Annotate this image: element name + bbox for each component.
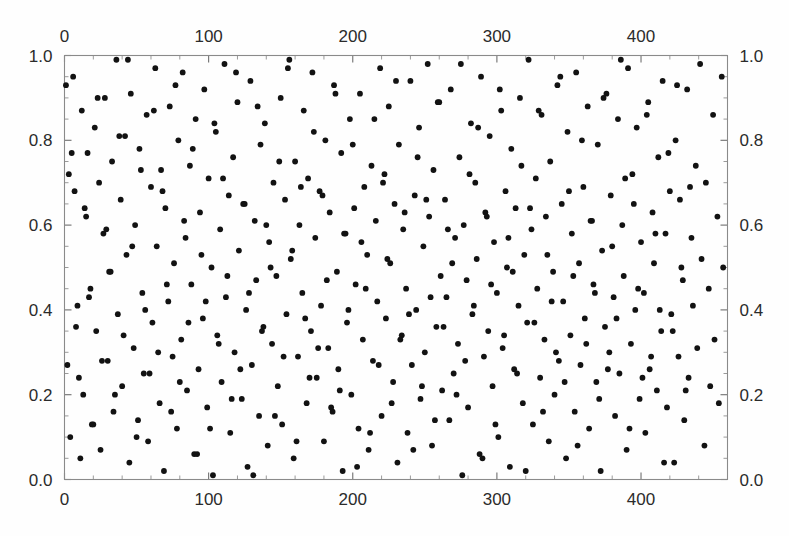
data-point xyxy=(583,341,589,347)
data-point xyxy=(556,358,562,364)
data-point xyxy=(222,61,228,67)
data-point xyxy=(716,400,722,406)
y-axis-tick-label-right: 0.8 xyxy=(740,131,764,150)
data-point xyxy=(321,438,327,444)
data-point xyxy=(72,188,78,194)
data-point xyxy=(335,366,341,372)
data-point xyxy=(560,299,566,305)
data-point xyxy=(533,176,539,182)
data-point xyxy=(126,460,132,466)
data-point xyxy=(255,103,261,109)
data-point xyxy=(472,180,478,186)
data-point xyxy=(113,57,119,63)
data-point xyxy=(305,176,311,182)
data-point xyxy=(432,417,438,423)
data-point xyxy=(69,150,75,156)
data-point xyxy=(690,303,696,309)
data-point xyxy=(576,260,582,266)
data-point xyxy=(445,226,451,232)
data-point xyxy=(324,277,330,283)
data-point xyxy=(259,328,265,334)
data-point xyxy=(199,252,205,258)
data-point xyxy=(328,405,334,411)
data-point xyxy=(289,248,295,254)
data-point xyxy=(555,82,561,88)
data-point xyxy=(668,311,674,317)
data-point xyxy=(263,222,269,228)
data-point xyxy=(371,116,377,122)
data-point xyxy=(536,108,542,114)
data-point xyxy=(442,197,448,203)
data-point xyxy=(396,142,402,148)
data-point xyxy=(312,235,318,241)
data-point xyxy=(595,142,601,148)
data-point xyxy=(697,61,703,67)
data-point xyxy=(591,282,597,288)
data-point xyxy=(235,99,241,105)
data-point xyxy=(250,472,256,478)
data-point xyxy=(653,231,659,237)
y-axis-tick-label-right: 1.0 xyxy=(740,47,764,66)
data-point xyxy=(376,362,382,368)
data-point xyxy=(340,468,346,474)
data-point xyxy=(710,112,716,118)
data-point xyxy=(128,91,134,97)
data-point xyxy=(609,243,615,249)
data-point xyxy=(619,222,625,228)
data-point xyxy=(298,184,304,190)
data-point xyxy=(661,460,667,466)
data-point xyxy=(243,307,249,313)
data-point xyxy=(565,129,571,135)
data-point xyxy=(433,324,439,330)
data-point xyxy=(552,392,558,398)
data-point xyxy=(452,235,458,241)
data-point xyxy=(190,146,196,152)
data-point xyxy=(640,375,646,381)
data-point xyxy=(644,112,650,118)
data-point xyxy=(687,184,693,190)
data-point xyxy=(497,87,503,93)
data-point xyxy=(344,320,350,326)
y-axis-tick-label-left: 0.2 xyxy=(29,386,53,405)
data-point xyxy=(138,167,144,173)
data-point xyxy=(76,375,82,381)
data-point xyxy=(645,99,651,105)
data-point xyxy=(347,116,353,122)
data-point xyxy=(678,265,684,271)
data-point xyxy=(70,74,76,80)
data-point xyxy=(200,315,206,321)
data-point xyxy=(586,426,592,432)
data-point xyxy=(245,464,251,470)
data-point xyxy=(642,430,648,436)
data-point xyxy=(553,349,559,355)
data-point xyxy=(543,214,549,220)
data-point xyxy=(529,226,535,232)
data-point xyxy=(175,137,181,143)
data-point xyxy=(315,345,321,351)
data-point xyxy=(501,332,507,338)
data-point xyxy=(480,455,486,461)
data-point xyxy=(160,188,166,194)
data-point xyxy=(334,269,340,275)
data-point xyxy=(514,371,520,377)
data-point xyxy=(103,226,109,232)
data-point xyxy=(369,163,375,169)
data-point xyxy=(229,396,235,402)
data-point xyxy=(196,366,202,372)
data-point xyxy=(448,87,454,93)
data-point xyxy=(219,379,225,385)
data-point xyxy=(134,434,140,440)
data-point xyxy=(239,396,245,402)
data-point xyxy=(615,116,621,122)
data-point xyxy=(374,299,380,305)
data-point xyxy=(161,468,167,474)
data-point xyxy=(425,61,431,67)
data-point xyxy=(628,341,634,347)
data-point xyxy=(211,120,217,126)
data-point xyxy=(96,180,102,186)
data-point xyxy=(436,99,442,105)
data-point xyxy=(206,176,212,182)
data-point xyxy=(567,332,573,338)
data-point xyxy=(90,421,96,427)
data-point xyxy=(183,235,189,241)
